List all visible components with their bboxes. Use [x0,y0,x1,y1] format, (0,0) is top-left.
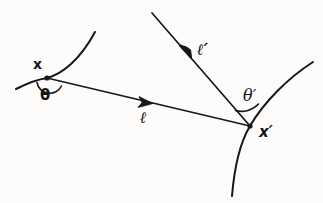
vertex-x-prime [247,123,252,128]
point-label-x: x [33,57,42,71]
incoming-segment-arrowhead [138,97,153,108]
angle-label-theta: θ [40,88,50,103]
point-label-x-prime: x′ [259,125,273,140]
geometry-figure: x x′ θ θ′ ℓ ℓ′ [0,0,323,203]
vertex-x [44,75,49,80]
segment-label-ell: ℓ [140,110,147,126]
outgoing-ray [152,13,250,126]
outgoing-ray-arrowhead [180,46,191,58]
angle-label-theta-prime: θ′ [243,88,256,104]
segment-label-ell-prime: ℓ′ [197,42,208,58]
theta-prime-arc [236,104,259,111]
